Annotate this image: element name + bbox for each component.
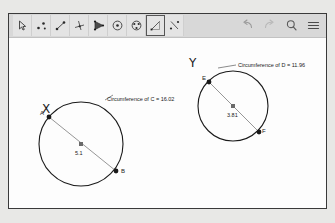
circle-x-label-a[interactable]: A bbox=[40, 110, 44, 116]
circle-y[interactable] bbox=[198, 65, 268, 141]
reflect-about-line-icon bbox=[168, 19, 181, 32]
circle-y-point-e[interactable] bbox=[207, 80, 212, 85]
circle-y-center-point[interactable] bbox=[231, 104, 235, 108]
toolbar-actions bbox=[240, 16, 321, 34]
triangle-polygon-icon bbox=[92, 19, 105, 32]
hamburger-menu-icon bbox=[307, 19, 320, 32]
undo-icon bbox=[241, 19, 254, 31]
perpendicular-line-tool[interactable] bbox=[70, 15, 89, 36]
circle-y-leader-line bbox=[218, 65, 236, 68]
move-tool[interactable] bbox=[13, 15, 32, 36]
circle-x-point-b[interactable] bbox=[114, 169, 119, 174]
circle-y-circumference-text[interactable]: Circumference of D = 11.96 bbox=[238, 62, 305, 68]
circle-center-point-tool[interactable] bbox=[108, 15, 127, 36]
geometry-app-window: X5.1ABCircumference of C = 16.02Y3.81EFC… bbox=[8, 13, 327, 209]
ellipse-icon bbox=[130, 19, 143, 32]
search-button[interactable] bbox=[284, 16, 299, 34]
circle-y-label-f[interactable]: F bbox=[262, 128, 266, 134]
circle-y-label-e[interactable]: E bbox=[202, 75, 206, 81]
reflect-tool[interactable] bbox=[165, 15, 184, 36]
redo-button[interactable] bbox=[262, 16, 277, 34]
line-tool[interactable] bbox=[51, 15, 70, 36]
tool-group bbox=[13, 15, 184, 36]
angle-measure-icon bbox=[149, 19, 162, 32]
circle-y-title: Y bbox=[189, 56, 196, 70]
point-tool[interactable] bbox=[32, 15, 51, 36]
circle-x-diameter-value[interactable]: 5.1 bbox=[75, 150, 83, 156]
ellipse-tool[interactable] bbox=[127, 15, 146, 36]
undo-button[interactable] bbox=[240, 16, 255, 34]
menu-button[interactable] bbox=[306, 16, 321, 34]
cursor-arrow-icon bbox=[16, 19, 29, 32]
points-icon bbox=[35, 19, 48, 32]
circle-with-center-icon bbox=[111, 19, 124, 32]
angle-measure-tool[interactable] bbox=[146, 15, 165, 36]
search-icon bbox=[285, 19, 298, 32]
circle-y-diameter-value[interactable]: 3.81 bbox=[227, 112, 238, 118]
geometry-canvas[interactable]: X5.1ABCircumference of C = 16.02Y3.81EFC… bbox=[9, 38, 326, 209]
circle-x[interactable] bbox=[39, 95, 123, 186]
circle-x-circumference-text[interactable]: Circumference of C = 16.02 bbox=[107, 96, 174, 102]
redo-icon bbox=[263, 19, 276, 31]
circle-x-center-point[interactable] bbox=[79, 142, 83, 146]
circle-x-label-b[interactable]: B bbox=[121, 168, 125, 174]
circle-y-point-f[interactable] bbox=[257, 130, 262, 135]
perpendicular-line-icon bbox=[73, 19, 86, 32]
line-segment-icon bbox=[54, 19, 67, 32]
toolbar bbox=[9, 14, 326, 38]
polygon-tool[interactable] bbox=[89, 15, 108, 36]
